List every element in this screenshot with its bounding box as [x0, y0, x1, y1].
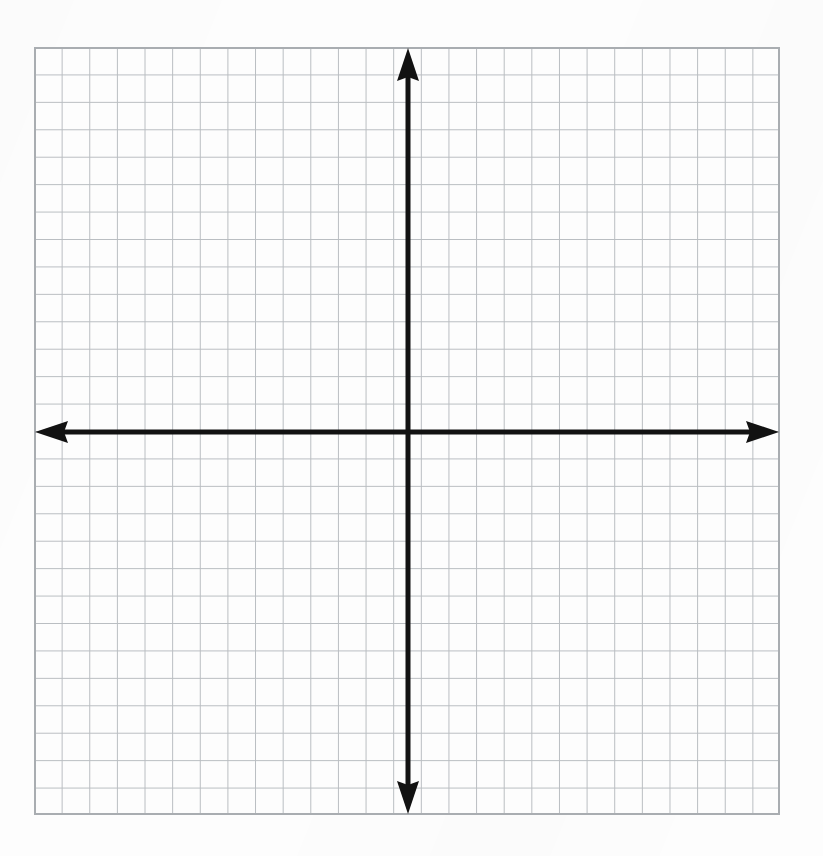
coordinate-plane-svg: [34, 47, 780, 815]
coordinate-plane-figure: [34, 47, 780, 815]
worksheet-page: [0, 0, 823, 856]
